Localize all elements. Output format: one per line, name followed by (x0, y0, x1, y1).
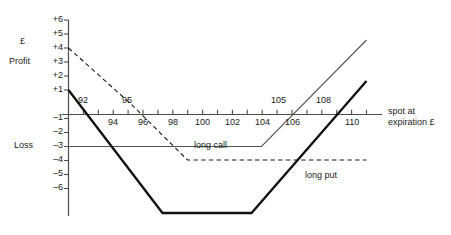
y-tick-label-p3: +3 (41, 56, 63, 67)
x-tick-label-96: 96 (138, 117, 148, 128)
payoff-chart: +6 +5 +4 +3 +2 +1 –1 –2 –3 –4 –5 –6 £ Pr… (0, 0, 451, 235)
y-tick-label-m2: –2 (41, 126, 63, 137)
y-tick-label-m4: –4 (41, 154, 63, 165)
y-tick-label-p2: +2 (41, 70, 63, 81)
x-tick-label-110: 110 (345, 117, 359, 128)
y-tick-label-m1: –1 (41, 112, 63, 123)
y-axis-ticks (64, 20, 69, 189)
x-axis-caption-line2: expiration £ (388, 117, 435, 128)
y-tick-label-m6: –6 (41, 182, 63, 193)
y-tick-label-p5: +5 (41, 28, 63, 39)
y-tick-label-m3: –3 (41, 140, 63, 151)
y-axis-profit-label: Profit (9, 56, 30, 67)
x-tick-label-102: 102 (225, 117, 240, 128)
x-tick-label-108: 108 (316, 95, 331, 106)
x-tick-label-92: 92 (78, 95, 88, 106)
x-tick-label-104: 104 (255, 117, 270, 128)
x-tick-label-98: 98 (168, 117, 178, 128)
y-tick-label-p6: +6 (41, 14, 63, 25)
y-tick-label-m5: –5 (41, 168, 63, 179)
series-label-long-call: long call (194, 140, 227, 151)
x-tick-label-95: 95 (122, 95, 132, 106)
y-tick-label-p4: +4 (41, 42, 63, 53)
y-axis-currency-label: £ (20, 36, 25, 47)
x-tick-label-106: 106 (285, 117, 300, 128)
series-label-long-put: long put (305, 170, 337, 181)
y-axis-loss-label: Loss (14, 140, 33, 151)
x-tick-label-105: 105 (271, 95, 286, 106)
series-long-call (69, 40, 367, 147)
x-tick-label-94: 94 (108, 117, 118, 128)
x-axis-caption-line1: spot at (388, 106, 415, 117)
y-tick-label-p1: +1 (41, 84, 63, 95)
x-tick-label-100: 100 (195, 117, 210, 128)
x-axis-ticks (83, 110, 366, 115)
